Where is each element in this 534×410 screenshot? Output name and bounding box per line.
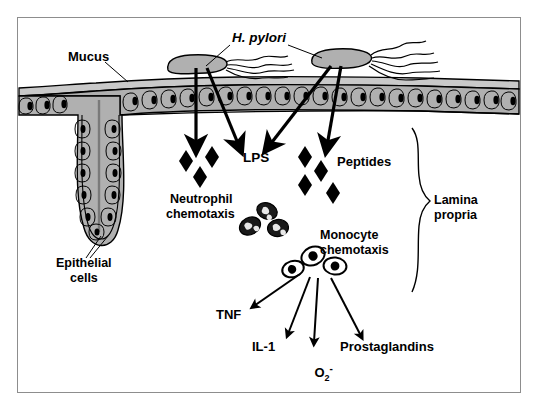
superoxide-superscript: -: [330, 363, 333, 374]
neutrophil-cluster: [236, 200, 289, 239]
lamina-propria-brace: [412, 128, 430, 292]
label-neutrophil-chemotaxis-line2: chemotaxis: [166, 207, 235, 221]
arrow-tnf: [254, 274, 300, 306]
superoxide-base: O: [314, 365, 324, 380]
h-pylori-right: [312, 41, 440, 80]
label-epithelial-cells-line1: Epithelial: [56, 256, 112, 270]
h-pylori-left: [168, 55, 294, 79]
peptide-diamonds: [298, 146, 340, 204]
figure-root: H. pylori Mucus Epithelial cells LPS Pep…: [0, 0, 534, 410]
label-epithelial-cells-line2: cells: [70, 271, 98, 285]
label-h-pylori: H. pylori: [232, 30, 286, 45]
arrow-superoxide: [314, 278, 318, 342]
label-peptides: Peptides: [337, 155, 391, 170]
label-tnf: TNF: [216, 308, 241, 323]
mediator-arrows: [254, 274, 361, 342]
label-lps: LPS: [243, 150, 269, 165]
lps-diamonds: [179, 146, 219, 188]
label-il1: IL-1: [252, 340, 275, 355]
label-monocyte-chemotaxis-line2: chemotaxis: [320, 243, 389, 257]
label-mucus: Mucus: [68, 50, 109, 65]
label-neutrophil-chemotaxis-line1: Neutrophil: [170, 192, 233, 206]
arrow-il1: [288, 277, 310, 334]
label-monocyte-chemotaxis-line1: Monocyte: [320, 228, 378, 242]
label-lamina-propria-line2: propria: [434, 208, 477, 222]
leader-mucus: [105, 62, 128, 82]
label-superoxide: O2-: [300, 348, 333, 397]
label-lamina-propria-line1: Lamina: [434, 193, 478, 207]
arrow-prostaglandins: [331, 278, 361, 336]
superoxide-subscript: 2: [325, 372, 330, 382]
label-prostaglandins: Prostaglandins: [340, 340, 434, 355]
leader-h-pylori-right: [288, 45, 322, 58]
